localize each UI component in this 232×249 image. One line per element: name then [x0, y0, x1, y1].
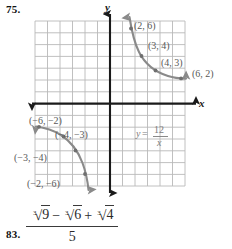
- radicand-3: 4: [105, 205, 114, 224]
- fraction-numerator: 3√9−3√6+3√4: [26, 206, 118, 226]
- point-neg2-neg6: [83, 172, 87, 176]
- radicand-1: 9: [41, 205, 50, 224]
- fraction-denominator: 5: [26, 227, 118, 246]
- point-4-3: [154, 69, 158, 73]
- worksheet-page: 75.: [0, 0, 232, 249]
- label-point-2-6: (2, 6): [134, 20, 156, 32]
- label-point-neg4-neg3: (−4, −3): [55, 129, 88, 141]
- label-point-neg6-neg2: (−6, −2): [29, 115, 62, 127]
- equation-equals: =: [142, 128, 148, 139]
- point-neg3-neg4: [74, 149, 78, 153]
- y-axis-label: y: [103, 1, 110, 13]
- equation-lhs: y: [135, 128, 141, 139]
- graph-figure-75: y x (2, 6) (3, 4): [0, 0, 232, 205]
- point-6-2: [179, 77, 183, 81]
- label-point-4-3: (4, 3): [161, 57, 183, 69]
- plotted-points-branch-1: [129, 27, 183, 81]
- coordinate-plane-svg: y x (2, 6) (3, 4): [0, 0, 232, 205]
- problem-number-83: 83.: [6, 228, 20, 240]
- point-labels: (2, 6) (3, 4) (4, 3) (6, 2) (−6, −2) (−4…: [14, 20, 214, 190]
- cube-root-9: 3√9: [30, 206, 50, 225]
- radicand-2: 6: [73, 205, 82, 224]
- operator-minus: −: [50, 208, 62, 223]
- cube-root-4: 3√4: [94, 206, 114, 225]
- label-point-neg3-neg4: (−3, −4): [14, 152, 47, 164]
- label-point-neg2-neg6: (−2, −6): [27, 178, 60, 190]
- x-axis-label: x: [198, 97, 205, 109]
- cube-root-6: 3√6: [62, 206, 82, 225]
- fraction: 3√9−3√6+3√4 5: [26, 206, 118, 245]
- equation-numerator: 12: [154, 124, 164, 135]
- operator-plus: +: [82, 208, 94, 223]
- point-3-4: [140, 54, 144, 58]
- label-point-3-4: (3, 4): [148, 40, 170, 52]
- point-2-6: [129, 27, 133, 31]
- axes: [32, 14, 196, 193]
- expression-83: 3√9−3√6+3√4 5: [26, 206, 166, 248]
- equation-denominator: x: [156, 137, 162, 148]
- label-point-6-2: (6, 2): [192, 68, 214, 80]
